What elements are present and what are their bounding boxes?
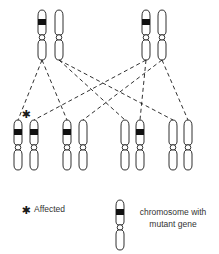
affected-marker-icon: ✱ — [21, 108, 30, 121]
chromosome-mutant — [63, 120, 71, 170]
legend-chromosome-mutant-icon — [116, 200, 124, 250]
chromosome-normal — [121, 120, 129, 170]
chromosome-normal — [55, 10, 63, 60]
chromosome-normal — [184, 120, 192, 170]
chromosome-mutant — [14, 120, 22, 170]
inheritance-lines — [18, 60, 188, 120]
legend-chromosome-label: chromosome with mutant gene — [128, 206, 218, 230]
affected-symbol-icon: ✱ — [21, 204, 30, 217]
chromosome-mutant — [30, 120, 38, 170]
legend-affected-label: Affected — [34, 203, 65, 215]
line-d-to-o4 — [162, 60, 188, 120]
parent-right — [142, 10, 166, 60]
chromosome-mutant — [38, 10, 46, 60]
chromosome-mutant — [136, 120, 144, 170]
chromosome-normal — [79, 120, 87, 170]
chromosome-mutant — [142, 10, 150, 60]
line-c-to-o3 — [140, 60, 146, 120]
chromosome-normal — [169, 120, 177, 170]
line-b-to-o4 — [59, 60, 173, 120]
legend-chromosome-label-line2: mutant gene — [128, 218, 218, 230]
chromosome-normal — [158, 10, 166, 60]
line-c-to-o1 — [34, 60, 146, 120]
offspring-4 — [169, 120, 192, 170]
line-d-to-o2 — [83, 60, 162, 120]
line-a-to-o2 — [42, 60, 67, 120]
offspring-2 — [63, 120, 87, 170]
offspring-1: ✱ — [14, 108, 38, 170]
legend-chromosome-label-line1: chromosome with — [128, 206, 218, 218]
offspring-3 — [121, 120, 144, 170]
parent-left — [38, 10, 63, 60]
